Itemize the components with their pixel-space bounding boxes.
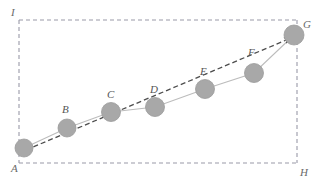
point-label-e: E	[200, 66, 207, 77]
vertex-markers	[15, 25, 304, 157]
corner-label-a: A	[11, 163, 18, 174]
point-label-b: B	[62, 104, 69, 115]
point-label-c: C	[107, 89, 114, 100]
corner-label-h: H	[300, 167, 308, 178]
vertex-circle-e	[196, 80, 215, 99]
vertex-circle-d	[146, 98, 165, 117]
vertex-circle-a	[15, 139, 33, 157]
figure-canvas	[0, 0, 319, 186]
vertex-circle-g	[284, 25, 304, 45]
corner-label-g: G	[303, 19, 311, 30]
dashed-bounding-rectangle	[19, 20, 297, 163]
vertex-circle-b	[58, 119, 76, 137]
vertex-circle-c	[102, 103, 121, 122]
corner-label-i: I	[11, 7, 15, 18]
vertex-circle-f	[245, 64, 264, 83]
point-label-d: D	[150, 84, 158, 95]
point-label-f: F	[248, 47, 255, 58]
figure-container: I G H A B C D E F	[0, 0, 319, 186]
